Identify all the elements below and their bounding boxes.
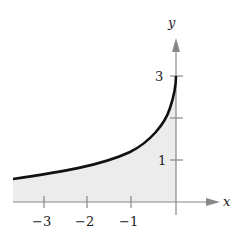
y-axis-label: y [167,15,176,30]
x-axis-arrow-icon [206,198,220,206]
x-axis-label: x [223,194,231,209]
y-axis-arrow-icon [172,38,180,52]
chart: −3 −2 −1 3 1 x y [0,0,238,228]
y-tick-label: 3 [155,69,163,84]
x-tick-label: −2 [75,214,94,228]
shaded-region [13,76,176,202]
x-tick-label: −3 [32,214,51,228]
y-tick-label: 1 [158,153,166,168]
x-tick-label: −1 [119,214,138,228]
